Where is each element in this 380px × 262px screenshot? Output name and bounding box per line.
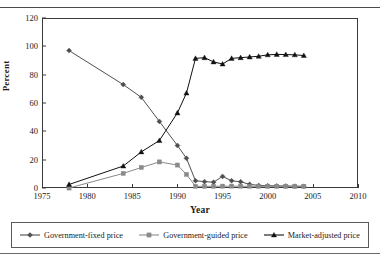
legend-item[interactable]: Market-adjusted price <box>264 230 360 240</box>
square-marker <box>302 184 306 188</box>
diamond-marker <box>238 179 243 184</box>
square-marker <box>175 163 179 167</box>
square-marker <box>293 184 297 188</box>
diamond-marker <box>220 174 225 179</box>
square-marker <box>157 160 161 164</box>
triangle-marker <box>184 90 189 95</box>
square-marker <box>275 184 279 188</box>
x-axis-label: Year <box>42 205 358 215</box>
diamond-marker <box>193 178 198 183</box>
legend-item[interactable]: Government-fixed price <box>20 230 123 240</box>
square-marker <box>211 184 215 188</box>
square-marker <box>257 184 261 188</box>
top-divider-rule <box>0 7 380 8</box>
series-diamond <box>67 48 307 189</box>
square-marker <box>239 184 243 188</box>
diamond-marker <box>202 179 207 184</box>
square-marker <box>230 184 234 188</box>
square-marker <box>184 172 188 176</box>
chart-figure: 0204060801001201975198019851990199520002… <box>0 9 380 251</box>
square-marker <box>139 165 143 169</box>
diamond-marker <box>28 233 33 238</box>
legend-label: Market-adjusted price <box>288 231 360 240</box>
square-marker <box>202 184 206 188</box>
legend-label: Government-guided price <box>163 231 247 240</box>
legend-item[interactable]: Government-guided price <box>139 230 247 240</box>
triangle-marker <box>175 110 180 115</box>
square-marker <box>248 184 252 188</box>
y-axis-label: Percent <box>1 46 11 106</box>
chart-legend: Government-fixed priceGovernment-guided … <box>11 222 369 248</box>
square-marker <box>147 233 151 237</box>
bottom-divider-rule <box>0 253 380 254</box>
diamond-marker <box>67 48 72 53</box>
triangle-marker <box>264 230 284 240</box>
legend-label: Government-fixed price <box>44 231 123 240</box>
series-line <box>69 54 304 184</box>
square-marker <box>284 184 288 188</box>
triangle-marker <box>139 149 144 154</box>
diamond-marker <box>211 180 216 185</box>
square-marker <box>193 184 197 188</box>
square-marker <box>139 230 159 240</box>
diamond-marker <box>20 230 40 240</box>
square-marker <box>266 184 270 188</box>
square-marker <box>220 184 224 188</box>
square-marker <box>121 171 125 175</box>
diamond-marker <box>229 178 234 183</box>
series-line <box>69 51 304 187</box>
